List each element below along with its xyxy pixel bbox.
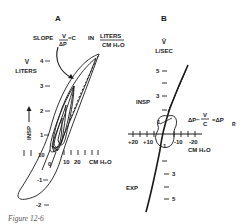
units-numerator: LITERS	[100, 33, 121, 39]
y-tick-neg1: -1	[37, 177, 43, 183]
y-tick-3: 3	[40, 83, 44, 89]
figure-canvas: A SLOPE V ΔP =C IN LITERS CM H₂O V LITER…	[0, 0, 244, 224]
x-tick-minus20: -20	[189, 139, 198, 145]
x-tick-10-right: 10	[63, 159, 70, 165]
panel-b-title: B	[161, 14, 167, 23]
y-tick-2: 2	[40, 108, 44, 114]
equation-rhs: =ΔP	[212, 117, 224, 123]
units-prefix: IN	[88, 35, 94, 41]
equation-subscript: R	[232, 121, 236, 127]
insp-label-b: INSP	[136, 99, 150, 105]
figure-caption: Figure 12-6	[7, 214, 44, 223]
y-axis-label-liters: LITERS	[15, 68, 36, 74]
x-tick-plus20: +20	[128, 139, 139, 145]
up-arrow-icon	[27, 106, 32, 111]
x-axis-unit-b: CM H₂O	[188, 147, 211, 153]
y-tick-5-up: 5	[156, 68, 160, 74]
y-tick-4: 4	[40, 58, 44, 64]
y-tick-3-down: 3	[172, 171, 176, 177]
y-tick-neg2: -2	[36, 202, 42, 208]
exp-label: EXP	[126, 185, 138, 191]
equation-frac-num: V	[203, 112, 207, 118]
slope-equals: =C	[68, 35, 77, 41]
x-axis-unit: CM H₂O	[89, 159, 112, 165]
slope-denominator: ΔP	[59, 41, 67, 47]
panel-a: A SLOPE V ΔP =C IN LITERS CM H₂O V LITER…	[15, 14, 125, 208]
slope-numerator: V	[62, 33, 66, 39]
panel-b: B V̇ L/SEC 5 3 1 INSP +20 +10 -10 -20 CM…	[126, 14, 236, 212]
y-tick-1: 1	[40, 132, 44, 138]
panel-a-title: A	[55, 14, 61, 23]
units-denominator: CM H₂O	[102, 42, 125, 48]
loop-tail	[50, 152, 56, 168]
y-tick-1-down: 1	[163, 143, 167, 149]
y-tick-3-up: 3	[156, 93, 160, 99]
x-tick-20: 20	[74, 159, 81, 165]
y-tick-5-down: 5	[172, 196, 176, 202]
flow-line-2	[168, 70, 186, 112]
y-axis-label-lsec: L/SEC	[155, 48, 173, 54]
slope-arrow	[57, 47, 72, 78]
x-tick-minus10: -10	[174, 139, 183, 145]
middle-loop	[50, 58, 96, 152]
slope-label: SLOPE	[33, 35, 53, 41]
equation-lhs: ΔP−	[188, 117, 200, 123]
y-axis-label-vdot: V̇	[162, 38, 167, 45]
insp-label: INSP	[26, 126, 32, 140]
equation-frac-den: C	[203, 121, 208, 127]
y-axis-label-v: V	[25, 58, 30, 65]
x-tick-plus10: +10	[143, 139, 154, 145]
